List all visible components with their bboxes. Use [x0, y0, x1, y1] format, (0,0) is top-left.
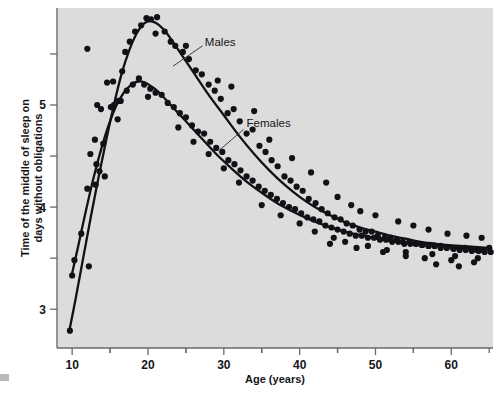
data-point: [342, 239, 348, 245]
data-point: [275, 163, 281, 169]
y-tick-label: 5: [39, 98, 46, 112]
data-point: [199, 71, 205, 77]
data-point: [175, 124, 181, 130]
chart-svg: 345 102030405060 MalesFemales Age (years…: [0, 0, 497, 396]
data-point: [287, 177, 293, 183]
data-point: [281, 173, 287, 179]
data-point: [104, 79, 110, 85]
data-point: [256, 143, 262, 149]
data-point: [225, 110, 231, 116]
data-point: [206, 81, 212, 87]
data-point: [353, 245, 359, 251]
data-point: [294, 184, 300, 190]
data-point: [115, 116, 121, 122]
y-tick-label: 3: [39, 303, 46, 317]
data-point: [212, 88, 218, 94]
y-axis-title-line-1: Time of the middle of sleep on: [19, 99, 31, 257]
data-point: [215, 77, 221, 83]
data-point: [206, 151, 212, 157]
y-axis-title: Time of the middle of sleep ondays witho…: [19, 99, 44, 257]
data-point: [190, 139, 196, 145]
data-point: [479, 235, 485, 241]
data-point: [331, 235, 337, 241]
data-point: [384, 247, 390, 253]
data-point: [463, 233, 469, 239]
data-point: [154, 14, 160, 20]
data-point: [92, 137, 98, 143]
data-point: [98, 106, 104, 112]
data-point: [334, 194, 340, 200]
data-point: [251, 108, 257, 114]
data-point: [237, 118, 243, 124]
x-tick-label: 50: [369, 358, 383, 372]
data-point: [395, 218, 401, 224]
data-point: [266, 137, 272, 143]
data-point: [86, 263, 92, 269]
data-point: [183, 43, 189, 49]
data-point: [327, 241, 333, 247]
data-point: [231, 106, 237, 112]
data-point: [87, 151, 93, 157]
data-point: [429, 251, 435, 257]
data-point: [221, 165, 227, 171]
data-point: [422, 255, 428, 261]
data-point: [84, 46, 90, 52]
data-point: [456, 263, 462, 269]
data-point: [243, 130, 249, 136]
data-point: [433, 261, 439, 267]
data-point: [323, 179, 329, 185]
x-tick-label: 20: [141, 358, 155, 372]
data-point: [262, 149, 268, 155]
data-point: [145, 94, 151, 100]
x-tick-label: 40: [293, 358, 307, 372]
plot-area-background: [57, 8, 493, 348]
data-point: [228, 84, 234, 90]
data-point: [488, 249, 494, 255]
data-point: [250, 177, 256, 183]
data-point: [218, 96, 224, 102]
x-tick-label: 10: [65, 358, 79, 372]
data-point: [372, 212, 378, 218]
data-point: [357, 208, 363, 214]
data-point: [213, 145, 219, 151]
data-point: [425, 226, 431, 232]
x-axis-title: Age (years): [245, 373, 305, 385]
data-point: [444, 231, 450, 237]
figure-container: 345 102030405060 MalesFemales Age (years…: [0, 0, 497, 396]
data-point: [289, 155, 295, 161]
page-edge-mark: [0, 374, 9, 381]
data-point: [231, 161, 237, 167]
data-point: [278, 212, 284, 218]
data-point: [268, 157, 274, 163]
data-point: [452, 253, 458, 259]
series-label-males: Males: [205, 36, 236, 48]
series-label-females: Females: [247, 117, 291, 129]
data-point: [348, 202, 354, 208]
data-point: [102, 173, 108, 179]
data-point: [312, 229, 318, 235]
data-point: [475, 255, 481, 261]
data-point: [237, 167, 243, 173]
data-point: [110, 78, 116, 84]
data-point: [300, 188, 306, 194]
data-point: [365, 243, 371, 249]
x-tick-label: 30: [217, 358, 231, 372]
data-point: [152, 30, 158, 36]
data-point: [410, 222, 416, 228]
data-point: [201, 130, 207, 136]
data-point: [403, 249, 409, 255]
data-point: [259, 202, 265, 208]
data-point: [297, 220, 303, 226]
data-point: [236, 179, 242, 185]
y-axis-title-line-2: days without obligations: [32, 114, 44, 243]
x-tick-label: 60: [445, 358, 459, 372]
data-point: [308, 169, 314, 175]
